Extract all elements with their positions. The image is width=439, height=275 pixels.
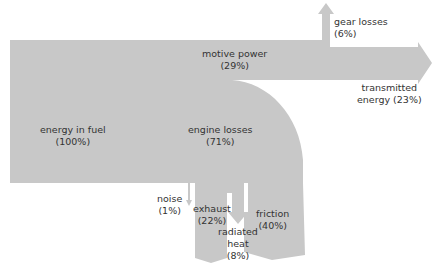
label-energy-in-fuel: energy in fuel (100%) — [40, 124, 106, 148]
flow-noise — [186, 183, 192, 206]
label-name: engine losses — [188, 124, 253, 136]
label-value: (100%) — [40, 136, 106, 148]
label-name-2: heat — [218, 238, 258, 250]
label-radiated-heat: radiated heat (8%) — [218, 226, 258, 262]
label-name: gear losses — [334, 16, 388, 28]
flow-transmitted-energy — [300, 42, 432, 84]
label-name: motive power — [202, 48, 267, 60]
label-transmitted-energy: transmitted energy (23%) — [357, 82, 422, 106]
label-engine-losses: engine losses (71%) — [188, 124, 253, 148]
label-value: (29%) — [202, 60, 267, 72]
label-value: (71%) — [188, 136, 253, 148]
flow-split-gap — [227, 183, 232, 193]
label-name: transmitted — [357, 82, 422, 94]
label-name: friction — [256, 208, 289, 220]
label-friction: friction (40%) — [256, 208, 289, 232]
label-value: (40%) — [256, 220, 289, 232]
label-gear-losses: gear losses (6%) — [334, 16, 388, 40]
label-name: noise — [157, 193, 182, 205]
label-name: exhaust — [193, 203, 231, 215]
label-noise: noise (1%) — [157, 193, 182, 217]
label-motive-power: motive power (29%) — [202, 48, 267, 72]
label-value: (8%) — [218, 250, 258, 262]
label-value: energy (23%) — [357, 94, 422, 106]
label-exhaust: exhaust (22%) — [193, 203, 231, 227]
flow-energy-in-fuel — [10, 40, 322, 183]
label-value: (6%) — [334, 28, 388, 40]
label-name: radiated — [218, 226, 258, 238]
label-value: (1%) — [157, 205, 182, 217]
label-name: energy in fuel — [40, 124, 106, 136]
